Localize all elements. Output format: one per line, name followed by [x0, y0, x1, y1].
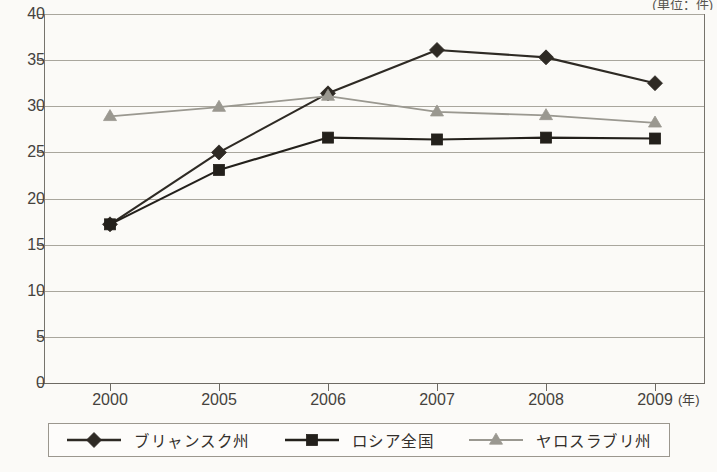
legend-label-1: ブリャンスク州 [134, 429, 250, 451]
data-point-triangle-2008 [540, 109, 553, 120]
legend-item-2: ロシア全国 [284, 429, 435, 451]
data-point-triangle-2009 [649, 116, 662, 127]
x-tick-2005 [219, 383, 220, 391]
series-2 [105, 132, 661, 230]
data-point-square-2000 [105, 219, 116, 230]
series-line-2 [110, 138, 655, 225]
triangle-marker [468, 432, 524, 448]
x-tick-2006 [328, 383, 329, 391]
x-axis-label-2008: 2008 [501, 392, 591, 408]
x-tick-2007 [437, 383, 438, 391]
x-tick-2009 [655, 383, 656, 391]
legend-label-2: ロシア全国 [352, 429, 435, 451]
x-tick-2008 [546, 383, 547, 391]
square-marker [284, 432, 340, 448]
data-point-triangle-2000 [104, 110, 117, 121]
chart-screenshot: (単位：件) 0510152025303540 2000200520062007… [0, 0, 717, 472]
series-line-3 [110, 96, 655, 123]
x-tick-2000 [110, 383, 111, 391]
series-3 [104, 89, 662, 127]
data-point-diamond-2008 [539, 50, 554, 65]
chart-legend: ブリャンスク州ロシア全国ヤロスラブリ州 [48, 423, 670, 457]
data-point-square-2009 [650, 133, 661, 144]
line-chart: 0510152025303540 20002005200620072008200… [0, 0, 717, 410]
data-point-diamond-2005 [212, 145, 227, 160]
legend-label-3: ヤロスラブリ州 [536, 429, 652, 451]
data-point-square-2007 [432, 134, 443, 145]
series-layer [0, 0, 717, 410]
legend-item-1: ブリャンスク州 [66, 429, 250, 451]
legend-item-3: ヤロスラブリ州 [468, 429, 652, 451]
data-point-square-2005 [214, 164, 225, 175]
diamond-marker [66, 432, 122, 448]
x-axis-label-2007: 2007 [392, 392, 482, 408]
data-point-square-2006 [323, 132, 334, 143]
x-axis-label-2000: 2000 [65, 392, 155, 408]
data-point-square-2008 [541, 132, 552, 143]
data-point-diamond-2009 [648, 76, 663, 91]
x-axis-label-2005: 2005 [174, 392, 264, 408]
x-axis-unit-label: (年) [678, 393, 700, 406]
data-point-diamond-2007 [430, 42, 445, 57]
x-axis-label-2006: 2006 [283, 392, 373, 408]
